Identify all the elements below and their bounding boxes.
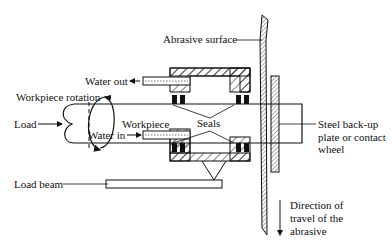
label-steel-backup-3: wheel bbox=[318, 143, 344, 155]
label-steel-backup-1: Steel back-up bbox=[318, 118, 378, 130]
water-out-pipe bbox=[143, 77, 190, 85]
label-direction-3: abrasive bbox=[290, 225, 327, 237]
water-in-pipe bbox=[143, 131, 190, 139]
label-direction-2: travel of the bbox=[290, 212, 343, 224]
label-load-beam: Load beam bbox=[14, 178, 63, 190]
label-abrasive-surface: Abrasive surface bbox=[163, 33, 237, 45]
load-support bbox=[202, 161, 226, 180]
label-steel-backup-2: plate or contact bbox=[318, 131, 386, 143]
label-load: Load bbox=[14, 118, 37, 130]
abrasive-belt bbox=[260, 15, 268, 235]
label-direction-1: Direction of bbox=[290, 199, 343, 211]
label-water-out: Water out bbox=[85, 75, 128, 87]
label-workpiece: Workpiece bbox=[122, 118, 169, 130]
steel-backup-plate bbox=[271, 76, 279, 172]
label-water-in: Water in bbox=[88, 129, 125, 141]
label-workpiece-rotation: Workpiece rotation bbox=[16, 91, 100, 103]
rotation-arrow-icon bbox=[89, 97, 115, 150]
label-seals: Seals bbox=[197, 117, 220, 129]
load-beam bbox=[106, 180, 222, 188]
